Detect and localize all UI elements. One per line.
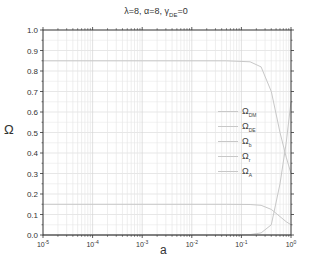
legend-swatch — [218, 126, 238, 127]
svg-text:0.5: 0.5 — [27, 129, 39, 138]
svg-text:10-1: 10-1 — [235, 239, 247, 248]
svg-text:0.6: 0.6 — [27, 108, 39, 117]
y-axis-label: Ω — [4, 122, 14, 137]
svg-text:0.7: 0.7 — [27, 88, 39, 97]
legend-label: ΩDE — [242, 121, 256, 133]
chart-title: λ=8, α=8, γDE=0 — [0, 6, 312, 18]
legend-item-omega-dm: ΩDM — [218, 104, 278, 119]
x-axis-label: a — [160, 243, 167, 257]
legend-swatch — [218, 111, 238, 112]
legend-label: Ωb — [242, 136, 252, 148]
svg-text:10-2: 10-2 — [186, 239, 198, 248]
svg-text:0.9: 0.9 — [27, 47, 39, 56]
legend: ΩDM ΩDE Ωb Ωr ΩA — [218, 104, 278, 179]
svg-text:0.1: 0.1 — [27, 211, 39, 220]
legend-swatch — [218, 171, 238, 172]
svg-text:0.8: 0.8 — [27, 67, 39, 76]
svg-text:10-4: 10-4 — [86, 239, 98, 248]
legend-item-omega-a: ΩA — [218, 164, 278, 179]
svg-text:100: 100 — [286, 239, 297, 248]
svg-text:0.3: 0.3 — [27, 170, 39, 179]
legend-item-omega-r: Ωr — [218, 149, 278, 164]
svg-text:10-5: 10-5 — [37, 239, 49, 248]
svg-text:0.2: 0.2 — [27, 190, 39, 199]
svg-text:0.4: 0.4 — [27, 149, 39, 158]
svg-text:0.0: 0.0 — [27, 231, 39, 240]
legend-item-omega-de: ΩDE — [218, 119, 278, 134]
legend-swatch — [218, 141, 238, 142]
legend-swatch — [218, 156, 238, 157]
legend-item-omega-b: Ωb — [218, 134, 278, 149]
legend-label: ΩA — [242, 166, 252, 178]
legend-label: ΩDM — [242, 106, 257, 118]
svg-text:1.0: 1.0 — [27, 26, 39, 35]
svg-text:10-3: 10-3 — [136, 239, 148, 248]
legend-label: Ωr — [242, 151, 250, 163]
